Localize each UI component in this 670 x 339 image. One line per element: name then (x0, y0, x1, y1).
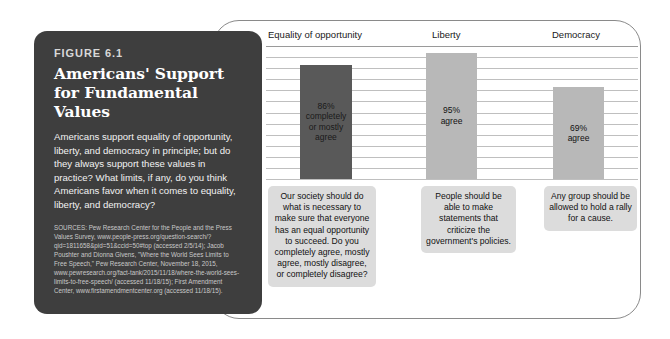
chart-bars: 86% completely or mostly agree 95% agree… (266, 46, 638, 179)
chart-category-labels: Equality of opportunity Liberty Democrac… (266, 28, 638, 46)
bar-liberty: 95% agree (426, 53, 477, 179)
figure-number: FIGURE 6.1 (54, 47, 242, 59)
figure-title: Americans' Support for Fundamental Value… (54, 64, 242, 121)
bar-democracy: 69% agree (553, 87, 604, 179)
survey-question-callouts: Our society should do what is necessary … (266, 186, 638, 306)
figure-info-panel: FIGURE 6.1 Americans' Support for Fundam… (34, 31, 262, 314)
bar-value-label-liberty: 95% agree (438, 105, 466, 126)
figure-root: Equality of opportunity Liberty Democrac… (0, 0, 670, 339)
bar-value-label-democracy: 69% agree (565, 123, 593, 144)
callout-democracy: Any group should be allowed to hold a ra… (544, 186, 637, 231)
callout-equality-of-opportunity: Our society should do what is necessary … (268, 186, 376, 287)
category-label-liberty: Liberty (432, 28, 461, 41)
category-label-democracy: Democracy (552, 28, 600, 41)
category-label-equality: Equality of opportunity (268, 28, 362, 41)
bar-equality-of-opportunity: 86% completely or mostly agree (300, 65, 352, 179)
bar-value-label-equality: 86% completely or mostly agree (303, 101, 350, 143)
gridline (266, 179, 638, 180)
bar-chart: Equality of opportunity Liberty Democrac… (266, 28, 638, 180)
callout-liberty: People should be able to make statements… (421, 186, 516, 253)
figure-description: Americans support equality of opportunit… (54, 130, 242, 212)
figure-sources: SOURCES: Pew Research Center for the Peo… (54, 223, 242, 296)
